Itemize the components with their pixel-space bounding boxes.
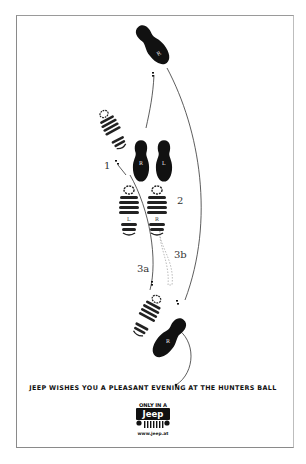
- jeep-logo: ONLY IN A Jeep www.jeep.at: [130, 402, 176, 436]
- logo-brand-box: Jeep: [136, 408, 170, 420]
- step-label-3a: 3a: [137, 263, 149, 274]
- svg-text:L: L: [127, 216, 131, 222]
- svg-text:R: R: [155, 216, 159, 222]
- dance-steps-diagram: R R L L R R: [0, 0, 306, 464]
- step-label-3b: 3b: [174, 249, 187, 260]
- path-curve-dotted: [160, 230, 173, 285]
- jeep-grille-icon: [136, 420, 170, 428]
- step-label-2: 2: [177, 195, 183, 206]
- path-curve: [167, 68, 201, 300]
- path-curve: [176, 328, 191, 385]
- path-curve: [146, 75, 154, 128]
- logo-brand-text: Jeep: [143, 409, 164, 419]
- svg-text:R: R: [166, 338, 170, 344]
- footprint-boot-right: [147, 186, 167, 235]
- website-url: www.jeep.at: [130, 431, 176, 436]
- path-curve: [118, 165, 126, 175]
- footprint-shoe-top: [131, 21, 174, 68]
- svg-text:R: R: [139, 160, 143, 166]
- footprint-boot-upper: [95, 107, 130, 152]
- step-label-1: 1: [104, 160, 110, 171]
- footprint-boot-lower: [129, 292, 166, 339]
- footprint-boot-left: [119, 186, 139, 235]
- tagline: JEEP WISHES YOU A PLEASANT EVENING AT TH…: [0, 384, 306, 392]
